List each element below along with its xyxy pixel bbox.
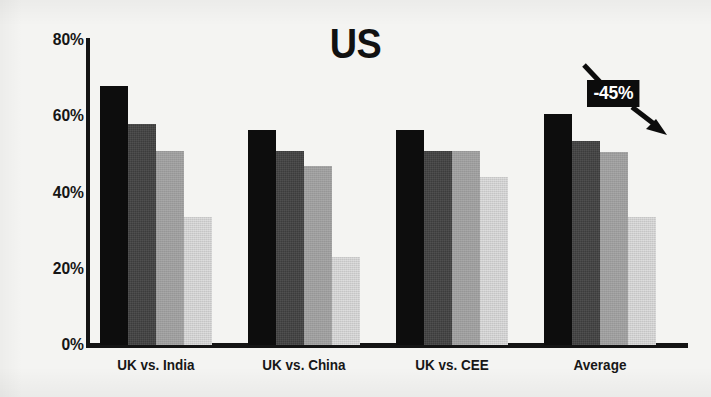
bar — [544, 114, 572, 345]
bar — [248, 130, 276, 345]
bar — [572, 141, 600, 345]
y-axis-tick-20pct: 20% — [18, 259, 84, 279]
y-axis-tick-60pct: 60% — [18, 106, 84, 126]
y-axis-tick-0pct: 0% — [18, 335, 84, 355]
bar — [600, 152, 628, 345]
x-axis-category-label: Average — [532, 356, 669, 373]
bar-group — [248, 40, 360, 345]
bar — [480, 177, 508, 345]
bar — [628, 217, 656, 345]
bar — [332, 257, 360, 345]
y-axis-tick-40pct: 40% — [18, 183, 84, 203]
bar — [128, 124, 156, 345]
bar — [100, 86, 128, 345]
bar-chart: US 0%20%40%60%80% -45% UK vs. IndiaUK vs… — [0, 0, 711, 397]
y-axis-tick-labels: 0%20%40%60%80% — [0, 0, 84, 397]
bar — [396, 130, 424, 345]
bar — [276, 151, 304, 345]
x-axis-category-label: UK vs. CEE — [384, 356, 521, 373]
x-axis-category-label: UK vs. China — [236, 356, 373, 373]
bar-group — [396, 40, 508, 345]
bar — [452, 151, 480, 345]
bar — [304, 166, 332, 345]
bar-group — [100, 40, 212, 345]
bar — [184, 217, 212, 345]
decline-callout-badge: -45% — [587, 80, 640, 107]
bar — [424, 151, 452, 345]
bar — [156, 151, 184, 345]
y-axis-tick-80pct: 80% — [18, 30, 84, 50]
x-axis-category-label: UK vs. India — [88, 356, 225, 373]
